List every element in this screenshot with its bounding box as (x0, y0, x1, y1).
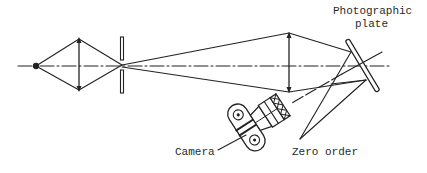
diverging-rays (122, 33, 289, 92)
converging-rays (289, 33, 366, 92)
collimating-lens-icon (287, 32, 292, 93)
camera-icon (224, 82, 297, 154)
plate-label-line2: plate (355, 18, 388, 30)
plate-label-line1: Photographic (333, 5, 412, 17)
condenser-lens-icon (77, 37, 82, 92)
zero-order-label: Zero order (292, 146, 358, 158)
zero-order-rays (300, 52, 366, 139)
camera-leader-line (218, 135, 246, 150)
camera-label: Camera (175, 146, 215, 158)
optical-diagram: Photographic plate Camera Zero order (0, 0, 427, 173)
